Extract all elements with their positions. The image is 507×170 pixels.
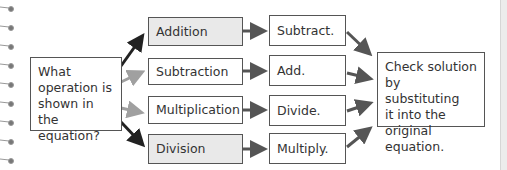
arrow-to-division (121, 122, 141, 143)
arrow-to-addition (121, 38, 141, 66)
inverse-subtract: Subtract. (269, 15, 346, 46)
inverse-multiply: Multiply. (269, 133, 346, 164)
operation-subtraction: Subtraction (148, 58, 243, 85)
operation-multiplication: Multiplication (148, 96, 243, 124)
operation-addition: Addition (148, 17, 243, 46)
inverse-divide: Divide. (269, 95, 346, 126)
operation-division: Division (148, 134, 243, 164)
conclusion-box: Check solution by substituting it into t… (377, 52, 485, 127)
inverse-add: Add. (269, 55, 346, 86)
arrow-to-subtraction (121, 73, 140, 82)
question-box: What operation is shown in the equation? (30, 57, 122, 131)
arrow-to-multiplication (121, 108, 139, 112)
